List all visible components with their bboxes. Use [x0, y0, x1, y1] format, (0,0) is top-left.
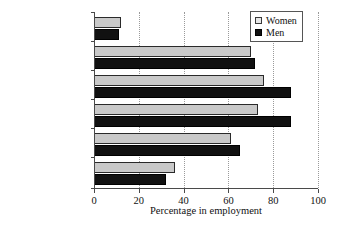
y-tick-2 [91, 70, 95, 71]
x-tick-60 [228, 189, 229, 193]
bar-women-35-49 [94, 75, 264, 86]
legend-entry-men: Men [255, 26, 297, 38]
bar-women-18-24 [94, 133, 231, 144]
x-tick-100 [318, 189, 319, 193]
y-tick-1 [91, 41, 95, 42]
legend-label-women: Women [266, 15, 297, 26]
bar-women-16-17 [94, 162, 175, 173]
x-tick-0 [94, 189, 95, 193]
bar-men-25-34 [94, 116, 291, 127]
gridline-40 [184, 12, 185, 188]
x-tick-40 [184, 189, 185, 193]
bar-women-60-65-and-over [94, 17, 121, 28]
chart-legend: Women Men [250, 11, 303, 42]
legend-swatch-women-icon [255, 17, 262, 24]
employment-bar-chart: 60/65 and over 50–59/64 35–49 25–34 18–2… [0, 0, 345, 228]
x-axis-title: Percentage in employment [94, 205, 318, 216]
x-tick-80 [273, 189, 274, 193]
bar-women-50-59-64 [94, 46, 251, 57]
legend-entry-women: Women [255, 14, 297, 26]
bar-men-18-24 [94, 145, 240, 156]
bar-women-25-34 [94, 104, 258, 115]
y-axis [94, 12, 95, 188]
x-tick-20 [139, 189, 140, 193]
bar-men-35-49 [94, 87, 291, 98]
bar-men-50-59-64 [94, 58, 255, 69]
legend-swatch-men-icon [255, 29, 262, 36]
x-axis: 0 20 40 60 80 100 [94, 188, 318, 189]
y-tick-5 [91, 157, 95, 158]
y-tick-4 [91, 128, 95, 129]
legend-label-men: Men [266, 27, 284, 38]
bar-men-16-17 [94, 174, 166, 185]
bar-men-60-65-and-over [94, 29, 119, 40]
y-tick-0 [91, 12, 95, 13]
gridline-100 [318, 12, 319, 188]
y-tick-3 [91, 99, 95, 100]
gridline-60 [228, 12, 229, 188]
